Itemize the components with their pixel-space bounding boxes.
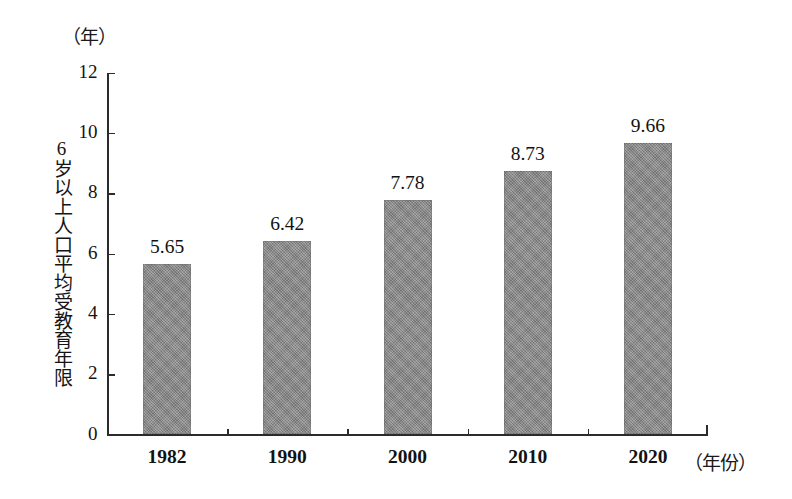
y-axis-tick-label: 10: [79, 122, 98, 142]
y-axis-line: [107, 74, 109, 436]
x-axis-end-tick: [706, 425, 708, 436]
x-axis-tick: [347, 429, 348, 436]
bar: 7.782000: [384, 200, 432, 435]
x-axis-line: [107, 434, 708, 436]
bar: 5.651982: [143, 264, 191, 434]
y-axis-tick-label: 8: [88, 182, 98, 202]
y-axis-tick-label: 12: [79, 62, 98, 82]
x-axis-tick: [588, 429, 589, 436]
y-axis-tick: 8: [107, 193, 115, 194]
y-axis-tick: 0: [107, 435, 115, 436]
y-axis-tick: 4: [107, 314, 115, 315]
bar: 6.421990: [263, 241, 311, 435]
x-axis-category-label: 2010: [508, 446, 547, 467]
x-axis-tick: [227, 429, 228, 436]
x-axis-tick: [468, 429, 469, 436]
bar-value-label: 9.66: [631, 116, 665, 136]
bar-value-label: 5.65: [150, 237, 184, 257]
y-axis-title: 6岁以上人口平均受教育年限: [46, 112, 72, 412]
bar-value-label: 7.78: [390, 173, 424, 193]
bar: 9.662020: [624, 143, 672, 434]
x-axis-category-label: 2020: [628, 446, 667, 467]
y-axis-tick: 10: [107, 133, 115, 134]
y-axis-tick-label: 2: [88, 363, 98, 383]
bar-value-label: 8.73: [511, 144, 545, 164]
plot-area: 024681012 5.6519826.4219907.7820008.7320…: [107, 74, 708, 436]
y-axis-tick: 2: [107, 374, 115, 375]
y-axis-tick-label: 4: [88, 303, 98, 323]
x-axis-category-label: 1982: [148, 446, 187, 467]
y-axis-unit-label: （年）: [62, 22, 116, 49]
x-axis-unit-label: （年份）: [684, 448, 756, 475]
y-axis-tick-label: 6: [88, 243, 98, 263]
y-axis-tick: 6: [107, 254, 115, 255]
bar: 8.732010: [504, 171, 552, 434]
x-axis-category-label: 1990: [268, 446, 307, 467]
bar-value-label: 6.42: [270, 214, 304, 234]
y-axis-tick: 12: [107, 73, 115, 74]
y-axis-tick-label: 0: [88, 424, 98, 444]
x-axis-category-label: 2000: [388, 446, 427, 467]
bar-chart: （年） 6岁以上人口平均受教育年限 024681012 5.6519826.42…: [0, 0, 792, 499]
